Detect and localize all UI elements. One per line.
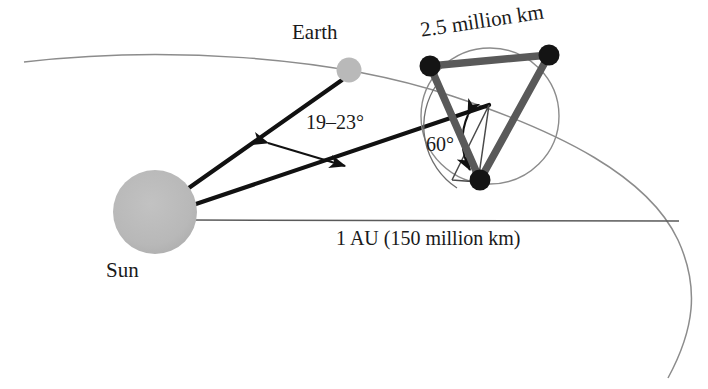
spacecraft-top-left (420, 56, 441, 77)
trail-angle-arrow (268, 143, 345, 166)
diagram-canvas: Earth Sun 2.5 million km 19–23° 60° 1 AU… (0, 0, 708, 389)
earth-label: Earth (292, 22, 337, 43)
spacecraft-top-right (539, 45, 560, 66)
earth-body (337, 58, 362, 83)
spacecraft-bottom (470, 170, 491, 191)
formation-angle-label: 60° (426, 134, 454, 154)
orbit-formation-diagram (0, 0, 708, 389)
sun-earth-line (176, 80, 342, 197)
au-baseline-label: 1 AU (150 million km) (336, 228, 520, 248)
sun-label: Sun (106, 260, 139, 281)
sun-body (113, 170, 197, 254)
trail-angle-label: 19–23° (306, 112, 364, 132)
au-baseline-line (190, 220, 679, 221)
